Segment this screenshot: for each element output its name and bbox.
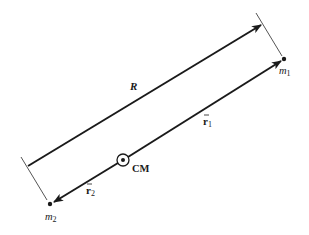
vector-r2-arrow [54,163,118,202]
center-of-mass-dot [121,158,125,162]
two-body-diagram: R r1 r2 CM m1 m2 [0,0,309,235]
tick-m1 [256,13,282,56]
label-r2: r2 [86,184,95,198]
vector-r1-arrow [128,61,281,157]
label-CM: CM [132,163,150,174]
mass-m1-dot [282,57,286,61]
diagram-canvas: R r1 r2 CM m1 m2 [0,0,309,235]
label-r1: r1 [203,115,212,129]
label-m2: m2 [45,211,57,224]
label-R: R [129,80,137,92]
mass-m2-dot [48,202,52,206]
label-m1: m1 [279,65,291,78]
